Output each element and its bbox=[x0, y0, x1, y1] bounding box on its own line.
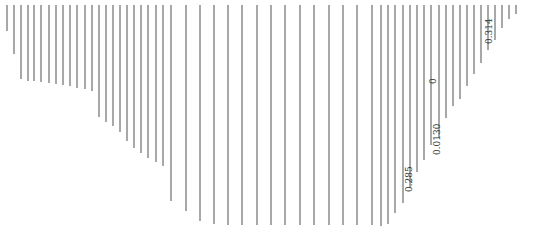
value-label: 0.0130 bbox=[433, 124, 442, 156]
value-label: 0.314 bbox=[485, 18, 494, 44]
value-label: 0 bbox=[429, 78, 438, 84]
vertical-lines-diagram bbox=[0, 0, 538, 230]
value-label: 0.285 bbox=[405, 166, 414, 192]
vertical-lines bbox=[7, 5, 516, 226]
